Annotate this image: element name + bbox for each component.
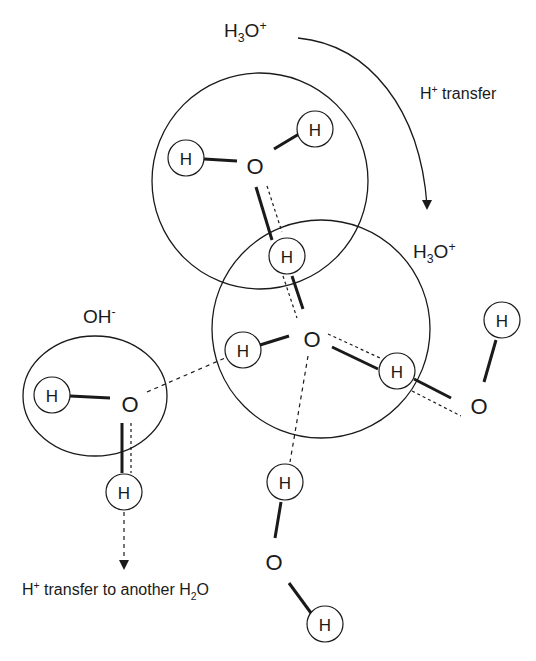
arrowhead-icon xyxy=(119,560,129,570)
svg-text:H: H xyxy=(309,121,321,140)
svg-text:H: H xyxy=(281,248,293,267)
hydrogen-atom: H xyxy=(484,302,520,338)
bond xyxy=(274,134,299,149)
arrowhead-icon xyxy=(422,200,432,210)
hydrogen-atom: H xyxy=(168,140,204,176)
hydrogen-atom: H xyxy=(297,111,333,147)
hydrogen-atom: H xyxy=(267,464,303,500)
hydrogen-atom: H xyxy=(269,238,305,274)
hydroxide-label: OH- xyxy=(83,305,116,328)
hydrogen-bond xyxy=(267,186,282,232)
oxygen-atom: O xyxy=(246,154,263,179)
oxygen-atom: O xyxy=(303,327,320,352)
hydrogen-bond xyxy=(290,356,308,462)
bottom-transfer-label: H+ transfer to another H2O xyxy=(22,580,209,602)
proton-transfer-diagram: H H H H H H H H xyxy=(0,0,536,661)
oxygen-atom: O xyxy=(265,550,282,575)
bond xyxy=(256,187,272,240)
bond xyxy=(70,396,110,398)
hydrogen-atom: H xyxy=(34,377,70,413)
upper-hydronium-boundary xyxy=(152,73,368,289)
hydrogen-bond xyxy=(412,391,461,416)
svg-text:H: H xyxy=(180,150,192,169)
oxygen-atom: O xyxy=(121,392,138,417)
svg-text:H: H xyxy=(237,342,249,361)
hydrogen-atom: H xyxy=(379,353,415,389)
middle-hydronium-boundary xyxy=(212,220,430,438)
hydrogen-bond xyxy=(147,355,232,392)
svg-text:H: H xyxy=(118,484,130,503)
svg-text:H: H xyxy=(496,312,508,331)
oxygen-atom: O xyxy=(470,394,487,419)
hydrogen-bond xyxy=(328,334,380,358)
h-transfer-label: H+ transfer xyxy=(420,84,496,103)
bond xyxy=(289,583,311,613)
svg-text:H: H xyxy=(319,616,331,635)
hydrogen-atom: H xyxy=(106,474,142,510)
bond xyxy=(484,340,496,382)
hydrogen-atom: H xyxy=(307,606,343,642)
svg-text:H: H xyxy=(279,474,291,493)
svg-text:H: H xyxy=(391,363,403,382)
bond xyxy=(275,502,281,538)
bond xyxy=(260,336,289,345)
middle-hydronium-label: H3O+ xyxy=(413,240,456,266)
bond xyxy=(332,347,378,369)
bond xyxy=(204,159,237,161)
svg-text:H: H xyxy=(46,387,58,406)
top-hydronium-label: H3O+ xyxy=(224,19,267,45)
hydrogen-atom: H xyxy=(225,332,261,368)
